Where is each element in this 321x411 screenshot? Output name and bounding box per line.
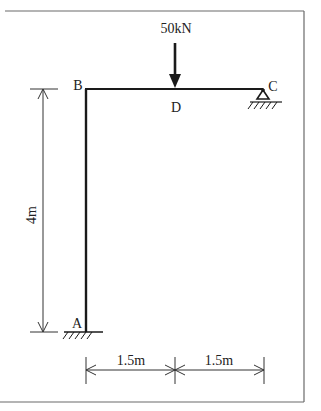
dim-span-label-dc: 1.5m <box>205 353 234 368</box>
frame-diagram: 50kN B D C A 4m <box>0 0 321 411</box>
node-label-a: A <box>72 316 83 331</box>
load-arrow-head-icon <box>169 74 181 88</box>
point-load-d: 50kN <box>160 21 191 88</box>
node-label-d: D <box>171 100 181 115</box>
fixed-support-a-icon <box>63 332 103 339</box>
load-label: 50kN <box>160 21 191 36</box>
outer-border <box>0 11 304 402</box>
dim-span-label-bd: 1.5m <box>117 353 146 368</box>
node-label-b: B <box>73 78 82 93</box>
dimension-spans <box>86 357 264 384</box>
dim-height-label: 4m <box>24 206 39 224</box>
node-label-c: C <box>268 79 277 94</box>
